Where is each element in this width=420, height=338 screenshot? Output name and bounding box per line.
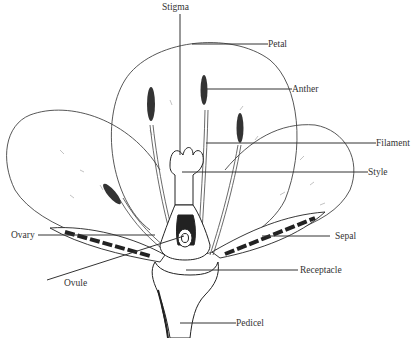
petal-top [111,43,297,255]
label-petal: Petal [268,39,287,49]
label-anther: Anther [292,84,318,94]
label-sepal: Sepal [335,231,356,241]
flower-diagram [0,0,420,338]
label-stigma: Stigma [162,2,189,12]
label-style: Style [368,167,388,177]
label-receptacle: Receptacle [300,265,342,275]
label-ovary: Ovary [11,230,35,240]
label-ovule: Ovule [64,278,87,288]
label-pedicel: Pedicel [236,318,264,328]
label-filament: Filament [376,138,410,148]
